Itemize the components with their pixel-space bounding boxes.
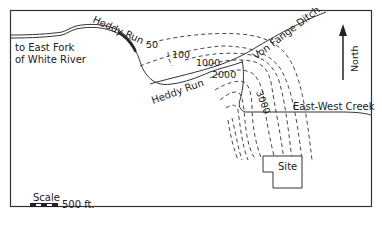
north-arrow-icon (339, 24, 347, 80)
contour-label-50: 50 (146, 39, 158, 50)
scale-title: Scale (33, 192, 60, 203)
north-label: North (349, 45, 360, 72)
site-map: Site Heddy Run Heddy Run to East Fork of… (0, 0, 382, 226)
scale-bar (30, 203, 58, 207)
contour-label-1000: 1000 (196, 57, 220, 68)
east-west-creek-label: East-West Creek (293, 101, 375, 112)
heddy-run-upper-label: Heddy Run (91, 14, 145, 46)
site-label: Site (278, 161, 297, 172)
east-fork-label-1: to East Fork (15, 42, 75, 53)
contour-label-2000: 2000 (212, 69, 236, 80)
contour-label-100: 100 (172, 49, 190, 60)
contour-label-3000: 3000 (254, 89, 273, 115)
von-fange-ditch-label: Von Fange Ditch (251, 4, 322, 61)
east-fork-label-2: of White River (15, 54, 87, 65)
scale-distance: 500 ft. (62, 199, 95, 210)
connector-stream (239, 60, 245, 112)
